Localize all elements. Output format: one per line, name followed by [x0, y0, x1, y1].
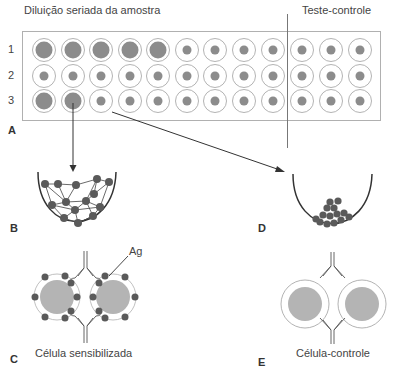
cell-button	[211, 72, 220, 81]
cell-button	[126, 97, 135, 106]
hemagglutination-diagram	[0, 0, 394, 375]
agglutination-mat	[36, 93, 53, 110]
well-grid	[33, 39, 372, 113]
cell-button	[40, 72, 49, 81]
cell-button	[269, 97, 278, 106]
button-well-d	[293, 174, 372, 228]
agglutination-well-b	[38, 172, 116, 227]
cell-button	[298, 46, 307, 55]
cell-button	[240, 46, 249, 55]
cell-button	[327, 46, 336, 55]
agglutination-mat	[93, 42, 110, 59]
cell-button	[154, 97, 163, 106]
cell-button	[97, 72, 106, 81]
cell-button	[269, 46, 278, 55]
sensitized-cells-c	[32, 251, 139, 343]
cell-button	[154, 72, 163, 81]
cell-button	[356, 46, 365, 55]
cell-button	[183, 46, 192, 55]
cell-button	[183, 72, 192, 81]
agglutination-mat	[36, 42, 53, 59]
cell-button	[240, 97, 249, 106]
agglutination-mat	[65, 42, 82, 59]
antigen-pointer	[109, 256, 128, 276]
arrow-to-b	[70, 103, 77, 172]
agglutination-mat	[150, 42, 167, 59]
cell-button	[240, 72, 249, 81]
control-cells-e	[281, 252, 386, 344]
cell-button	[298, 72, 307, 81]
cell-button	[69, 72, 78, 81]
cell-button	[211, 46, 220, 55]
cell-button	[211, 97, 220, 106]
agglutination-mat	[122, 42, 139, 59]
cell-button	[269, 72, 278, 81]
cell-button	[126, 72, 135, 81]
cell-button	[327, 97, 336, 106]
cell-button	[356, 72, 365, 81]
cell-button	[327, 72, 336, 81]
cell-button	[356, 97, 365, 106]
cell-button	[298, 97, 307, 106]
cell-button	[183, 97, 192, 106]
cell-button	[97, 97, 106, 106]
